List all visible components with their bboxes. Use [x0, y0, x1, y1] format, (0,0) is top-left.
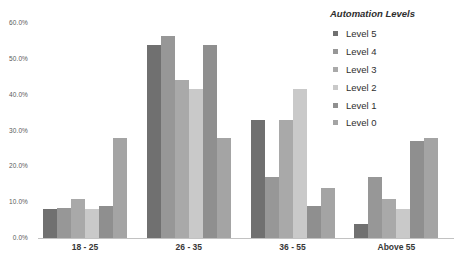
bar-group-26-35	[147, 36, 231, 238]
y-tick-label: 50.0%	[0, 55, 28, 63]
legend-marker-icon	[333, 49, 338, 54]
bar-group-18-25	[43, 138, 127, 238]
bar-group-above-55	[354, 138, 438, 238]
x-axis-label-18-25: 18 - 25	[72, 242, 98, 252]
bar-level-2	[189, 89, 203, 238]
legend-marker-icon	[333, 103, 338, 108]
bar-level-3	[71, 199, 85, 238]
legend-item-level-4: Level 4	[330, 43, 450, 61]
bar-level-4	[161, 36, 175, 238]
legend-item-label: Level 3	[346, 64, 377, 75]
bar-level-5	[354, 224, 368, 238]
legend-items: Level 5Level 4Level 3Level 2Level 1Level…	[330, 25, 450, 132]
legend-item-label: Level 0	[346, 117, 377, 128]
bar-level-5	[43, 209, 57, 238]
y-tick-label: 60.0%	[0, 19, 28, 27]
bar-level-4	[265, 177, 279, 238]
y-tick-label: 0.0%	[0, 234, 28, 242]
legend-marker-icon	[333, 85, 338, 90]
bar-level-2	[396, 209, 410, 238]
bar-level-5	[147, 45, 161, 239]
legend-item-level-2: Level 2	[330, 78, 450, 96]
legend-marker-icon	[333, 31, 338, 36]
bar-level-3	[279, 120, 293, 238]
legend-item-label: Level 2	[346, 82, 377, 93]
legend-item-label: Level 4	[346, 46, 377, 57]
bar-level-0	[217, 138, 231, 238]
bar-level-1	[99, 206, 113, 238]
y-tick-label: 30.0%	[0, 127, 28, 135]
bar-level-1	[410, 141, 424, 238]
legend: Automation Levels Level 5Level 4Level 3L…	[330, 8, 450, 132]
bar-level-1	[203, 45, 217, 239]
legend-item-level-5: Level 5	[330, 25, 450, 43]
x-axis-label-36-55: 36 - 55	[279, 242, 305, 252]
y-tick-label: 20.0%	[0, 162, 28, 170]
bar-level-3	[175, 80, 189, 238]
bar-level-2	[85, 209, 99, 238]
x-axis-label-above-55: Above 55	[377, 242, 415, 252]
legend-item-label: Level 1	[346, 100, 377, 111]
bar-level-4	[368, 177, 382, 238]
bar-level-3	[382, 199, 396, 238]
legend-marker-icon	[333, 120, 338, 125]
legend-item-level-0: Level 0	[330, 114, 450, 132]
legend-marker-icon	[333, 67, 338, 72]
legend-item-label: Level 5	[346, 28, 377, 39]
bar-group-36-55	[251, 89, 335, 238]
bar-level-0	[424, 138, 438, 238]
x-axis-line	[38, 238, 454, 239]
x-axis-labels: 18 - 2526 - 3536 - 55Above 55	[40, 242, 453, 256]
y-tick-label: 40.0%	[0, 91, 28, 99]
y-tick-label: 10.0%	[0, 198, 28, 206]
bar-chart: 0.0%10.0%20.0%30.0%40.0%50.0%60.0% 18 - …	[0, 0, 455, 261]
legend-item-level-3: Level 3	[330, 61, 450, 79]
x-axis-label-26-35: 26 - 35	[176, 242, 202, 252]
bar-level-2	[293, 89, 307, 238]
legend-title: Automation Levels	[330, 8, 450, 19]
bar-level-0	[321, 188, 335, 238]
bar-level-1	[307, 206, 321, 238]
bar-level-4	[57, 208, 71, 238]
bar-level-5	[251, 120, 265, 238]
bar-level-0	[113, 138, 127, 238]
y-axis: 0.0%10.0%20.0%30.0%40.0%50.0%60.0%	[0, 0, 30, 261]
legend-item-level-1: Level 1	[330, 96, 450, 114]
